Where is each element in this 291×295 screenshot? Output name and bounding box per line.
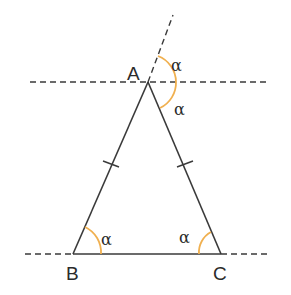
angle-label-a-exterior: α (171, 56, 182, 75)
vertex-label-c: C (213, 263, 227, 284)
angle-label-b: α (101, 230, 112, 249)
vertex-label-b: B (66, 263, 79, 284)
angle-label-c: α (179, 228, 190, 247)
angle-arc-c (199, 232, 211, 254)
vertex-label-a: A (127, 63, 140, 84)
isosceles-triangle-diagram: A B C α α α α (0, 0, 291, 295)
side-ab (73, 82, 148, 254)
tick-mark-ac (177, 161, 193, 167)
extension-of-side-ba (148, 15, 173, 82)
angle-label-a-alternate: α (174, 100, 185, 119)
angle-arc-b (85, 227, 101, 254)
